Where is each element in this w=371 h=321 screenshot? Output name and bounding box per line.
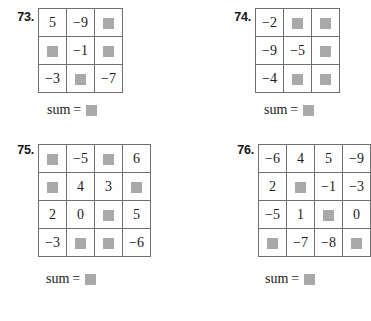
grid-row: −7 −8 [259,229,371,257]
grid-cell-blank[interactable] [343,229,371,257]
grid-body: −2 −9 −5 −4 [256,9,340,93]
grid-cell[interactable]: 1 [287,201,315,229]
grid-row: 5 −9 [39,9,123,37]
grid-cell-blank[interactable] [315,201,343,229]
grid-cell[interactable]: 2 [259,173,287,201]
grid-cell-blank[interactable] [95,9,123,37]
cell-blank-square[interactable] [103,18,114,29]
grid-cell[interactable]: −2 [256,9,284,37]
cell-blank-square[interactable] [131,182,142,193]
grid-cell-blank[interactable] [259,229,287,257]
grid-cell[interactable]: −9 [343,145,371,173]
cell-blank-square[interactable] [267,238,278,249]
number-grid-76[interactable]: −6 4 5 −9 2 −1 −3 −5 1 0 −7 −8 [258,144,371,257]
cell-blank-square[interactable] [320,18,331,29]
cell-blank-square[interactable] [320,74,331,85]
sum-answer-blank[interactable] [303,105,314,116]
grid-cell[interactable]: −6 [123,229,151,257]
grid-cell[interactable]: −1 [315,173,343,201]
grid-cell[interactable]: 0 [67,201,95,229]
number-grid-73[interactable]: 5 −9 −1 −3 −7 [38,8,123,93]
sum-label: sum [264,102,287,117]
cell-blank-square[interactable] [295,182,306,193]
sum-line-75: sum= [46,271,96,287]
grid-cell[interactable]: −4 [256,65,284,93]
grid-cell-blank[interactable] [95,229,123,257]
cell-blank-square[interactable] [103,238,114,249]
sum-answer-blank[interactable] [85,274,96,285]
cell-blank-square[interactable] [47,182,58,193]
grid-cell-blank[interactable] [95,145,123,173]
grid-cell-blank[interactable] [39,37,67,65]
cell-blank-square[interactable] [103,210,114,221]
sum-answer-blank[interactable] [86,105,97,116]
grid-cell-blank[interactable] [284,65,312,93]
cell-blank-square[interactable] [103,46,114,57]
grid-cell-blank[interactable] [39,145,67,173]
sum-line-74: sum= [264,102,314,118]
grid-cell-blank[interactable] [95,37,123,65]
grid-cell-blank[interactable] [312,9,340,37]
sum-answer-blank[interactable] [304,274,315,285]
grid-cell[interactable]: −7 [95,65,123,93]
grid-row: 2 −1 −3 [259,173,371,201]
grid-row: −1 [39,37,123,65]
grid-cell[interactable]: −5 [284,37,312,65]
grid-cell-blank[interactable] [312,65,340,93]
grid-cell-blank[interactable] [67,229,95,257]
grid-cell[interactable]: −5 [259,201,287,229]
grid-cell[interactable]: −1 [67,37,95,65]
grid-row: −2 [256,9,340,37]
sum-line-76: sum= [265,271,315,287]
equals-sign: = [291,271,299,286]
number-grid-74[interactable]: −2 −9 −5 −4 [255,8,340,93]
grid-cell-blank[interactable] [312,37,340,65]
cell-blank-square[interactable] [292,74,303,85]
grid-body: −5 6 4 3 2 0 5 −3 −6 [39,145,151,257]
grid-cell[interactable]: −9 [256,37,284,65]
grid-row: −6 4 5 −9 [259,145,371,173]
grid-cell[interactable]: −7 [287,229,315,257]
equals-sign: = [73,102,81,117]
number-grid-75[interactable]: −5 6 4 3 2 0 5 −3 −6 [38,144,151,257]
grid-cell[interactable]: 5 [315,145,343,173]
grid-body: 5 −9 −1 −3 −7 [39,9,123,93]
grid-cell-blank[interactable] [67,65,95,93]
cell-blank-square[interactable] [103,154,114,165]
grid-cell[interactable]: 3 [95,173,123,201]
grid-cell[interactable]: 0 [343,201,371,229]
grid-cell-blank[interactable] [284,9,312,37]
grid-cell[interactable]: −3 [343,173,371,201]
grid-cell-blank[interactable] [123,173,151,201]
equals-sign: = [72,271,80,286]
grid-cell[interactable]: 4 [67,173,95,201]
grid-cell-blank[interactable] [95,201,123,229]
grid-cell[interactable]: 4 [287,145,315,173]
grid-cell[interactable]: 5 [123,201,151,229]
grid-cell[interactable]: −9 [67,9,95,37]
grid-row: −9 −5 [256,37,340,65]
cell-blank-square[interactable] [351,238,362,249]
grid-cell[interactable]: 6 [123,145,151,173]
grid-cell[interactable]: −3 [39,229,67,257]
grid-cell[interactable]: −3 [39,65,67,93]
grid-row: 4 3 [39,173,151,201]
cell-blank-square[interactable] [292,18,303,29]
sum-line-73: sum= [47,102,97,118]
grid-cell[interactable]: 2 [39,201,67,229]
grid-row: −5 1 0 [259,201,371,229]
equals-sign: = [290,102,298,117]
cell-blank-square[interactable] [47,154,58,165]
cell-blank-square[interactable] [320,46,331,57]
grid-cell[interactable]: −8 [315,229,343,257]
cell-blank-square[interactable] [47,46,58,57]
grid-cell-blank[interactable] [39,173,67,201]
cell-blank-square[interactable] [75,238,86,249]
cell-blank-square[interactable] [75,74,86,85]
cell-blank-square[interactable] [323,210,334,221]
grid-cell[interactable]: −6 [259,145,287,173]
grid-cell-blank[interactable] [287,173,315,201]
grid-row: 2 0 5 [39,201,151,229]
grid-cell[interactable]: 5 [39,9,67,37]
grid-cell[interactable]: −5 [67,145,95,173]
